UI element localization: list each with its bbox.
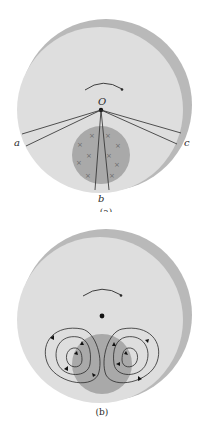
field-marker-x-icon: × — [76, 159, 82, 167]
rotation-arrowhead-icon — [120, 294, 123, 297]
field-marker-x-icon: × — [77, 141, 83, 149]
panel-a-diagram: × × × × × × × × × × O a c b (a) — [0, 0, 213, 212]
field-marker-x-icon: × — [85, 172, 91, 180]
panel-a: × × × × × × × × × × O a c b (a) — [0, 0, 213, 212]
point-label-c: c — [184, 137, 190, 148]
point-label-b: b — [98, 193, 104, 204]
field-marker-x-icon: × — [89, 132, 95, 140]
point-label-a: a — [14, 137, 20, 148]
field-marker-x-icon: × — [109, 172, 115, 180]
field-marker-x-icon: × — [106, 152, 112, 160]
rotation-arrowhead-icon — [121, 88, 124, 91]
field-marker-x-icon: × — [114, 161, 120, 169]
magnetic-field-region — [72, 126, 130, 184]
field-marker-x-icon: × — [105, 132, 111, 140]
pivot-point — [100, 314, 105, 319]
panel-b-diagram: (b) — [0, 212, 213, 424]
panel-b: (b) — [0, 212, 213, 424]
field-marker-x-icon: × — [115, 142, 121, 150]
caption-b: (b) — [96, 407, 109, 417]
field-marker-x-icon: × — [86, 152, 92, 160]
center-label: O — [98, 96, 106, 107]
